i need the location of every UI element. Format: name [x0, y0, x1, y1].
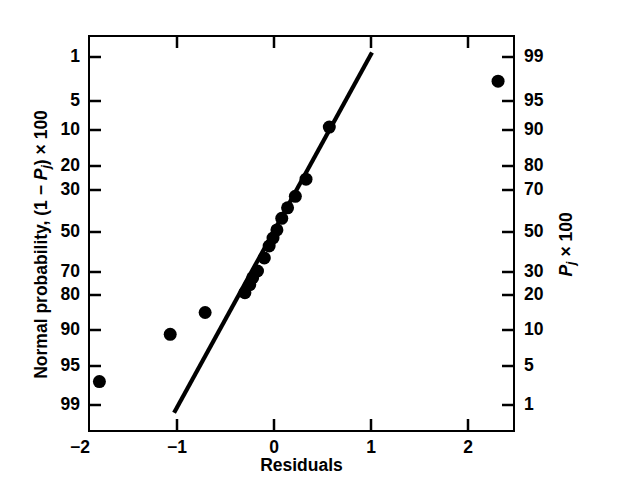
y-right-tick-label-9: 5	[524, 357, 534, 375]
y-axis-right-title: Pj × 100	[556, 124, 579, 364]
x-axis-title: Residuals	[88, 455, 515, 476]
y-right-tick-label-8: 10	[524, 321, 543, 339]
chart-canvas	[0, 0, 617, 490]
data-point	[289, 190, 302, 203]
x-tick-label-0: −2	[70, 439, 90, 457]
axis-ticks	[88, 35, 515, 432]
data-point	[270, 223, 283, 236]
data-point	[492, 75, 505, 88]
y-right-subscript: j	[564, 261, 578, 264]
data-point	[251, 265, 264, 278]
y-right-tick-label-6: 30	[524, 263, 543, 281]
data-points	[93, 75, 505, 388]
y-right-tick-label-7: 20	[524, 286, 543, 304]
y-right-tick-label-2: 90	[524, 121, 543, 139]
chart-root: 15102030507080909599 9995908070503020105…	[0, 0, 617, 490]
y-right-tick-label-3: 80	[524, 157, 543, 175]
data-point	[164, 328, 177, 341]
x-tick-label-1: −1	[167, 439, 187, 457]
data-point	[93, 375, 106, 388]
y-right-variable: P	[556, 265, 576, 277]
y-left-tick-label-0: 1	[28, 48, 80, 66]
y-left-suffix: ) × 100	[31, 110, 51, 165]
x-tick-label-2: 0	[269, 439, 279, 457]
data-point	[323, 121, 336, 134]
data-point	[300, 173, 313, 186]
y-right-tick-label-4: 70	[524, 181, 543, 199]
y-right-tick-label-10: 1	[524, 396, 534, 414]
y-axis-left-title: Normal probability, (1 − Pj) × 100	[31, 94, 54, 394]
data-point	[258, 252, 271, 265]
data-point	[199, 306, 212, 319]
x-tick-label-4: 2	[463, 439, 473, 457]
y-left-prefix: Normal probability, (1 −	[31, 180, 51, 379]
y-right-tick-label-0: 99	[524, 48, 543, 66]
y-right-suffix: × 100	[556, 212, 576, 261]
y-left-tick-label-10: 99	[28, 396, 80, 414]
data-point	[281, 201, 294, 214]
y-right-tick-label-5: 50	[524, 223, 543, 241]
y-left-subscript: j	[39, 165, 53, 168]
y-right-tick-label-1: 95	[524, 92, 543, 110]
x-tick-label-3: 1	[366, 439, 376, 457]
y-left-variable: P	[31, 169, 51, 181]
